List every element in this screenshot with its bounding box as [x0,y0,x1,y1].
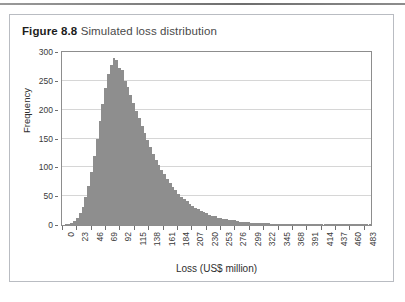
x-tick-label: 138 [152,232,162,246]
x-tick-mark [177,226,178,230]
x-tick-mark [105,226,106,230]
y-tick-label: 200 [39,105,53,115]
x-tick-mark [292,226,293,230]
plot-frame [61,51,372,226]
y-tick-mark [55,225,58,226]
x-tick-label: 230 [210,232,220,246]
figure-container: Figure 8.8 Simulated loss distribution F… [9,14,394,282]
x-tick-label: 115 [138,232,148,246]
x-tick-mark [364,226,365,230]
y-tick-mark [55,110,58,111]
x-tick-mark [148,226,149,230]
y-tick-label: 50 [44,191,53,201]
x-tick-mark [206,226,207,230]
x-tick-mark [62,226,63,230]
x-tick-mark [91,226,92,230]
x-tick-label: 184 [181,232,191,246]
y-tick-label: 0 [48,220,53,230]
y-tick-label: 150 [39,134,53,144]
x-tick-mark [134,226,135,230]
page-top-rule [0,3,405,5]
y-tick-label: 100 [39,162,53,172]
histogram-bars [62,52,371,225]
x-tick-label: 276 [238,232,248,246]
x-tick-label: 368 [296,232,306,246]
x-axis-title: Loss (US$ million) [61,263,372,274]
x-tick-label: 23 [80,232,90,241]
x-tick-label: 46 [95,232,105,241]
x-tick-label: 345 [282,232,292,246]
x-tick-mark [119,226,120,230]
x-tick-label: 322 [267,232,277,246]
y-tick-mark [55,196,58,197]
x-tick-label: 161 [167,232,177,246]
y-tick-label: 250 [39,76,53,86]
x-tick-mark [234,226,235,230]
x-tick-mark [335,226,336,230]
x-tick-label: 207 [195,232,205,246]
y-tick-mark [55,167,58,168]
x-tick-mark [220,226,221,230]
x-tick-label: 253 [224,232,234,246]
y-tick-label: 300 [39,47,53,57]
x-tick-mark [249,226,250,230]
x-tick-label: 483 [368,232,378,246]
y-tick-mark [55,81,58,82]
figure-caption: Figure 8.8 Simulated loss distribution [22,25,217,37]
x-tick-label: 0 [66,232,76,237]
x-tick-mark [191,226,192,230]
x-tick-label: 391 [310,232,320,246]
x-tick-mark [76,226,77,230]
x-tick-label: 460 [353,232,363,246]
x-tick-mark [349,226,350,230]
y-tick-mark [55,139,58,140]
histogram-bar [369,224,372,225]
x-tick-label: 437 [339,232,349,246]
x-tick-mark [278,226,279,230]
x-tick-label: 299 [253,232,263,246]
chart-area: Frequency 050100150200250300 02346699211… [10,43,395,283]
figure-title: Simulated loss distribution [81,25,217,37]
x-tick-label: 69 [109,232,119,241]
x-tick-label: 92 [123,232,133,241]
x-tick-mark [163,226,164,230]
x-tick-label: 414 [325,232,335,246]
y-axis-ticks: 050100150200250300 [10,51,58,226]
x-tick-mark [263,226,264,230]
y-tick-mark [55,52,58,53]
x-tick-mark [306,226,307,230]
x-tick-mark [321,226,322,230]
figure-number: Figure 8.8 [22,25,77,37]
